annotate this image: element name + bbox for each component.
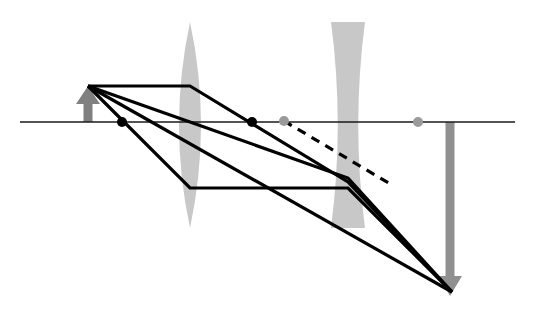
ray-diagram-canvas (0, 0, 533, 316)
object-arrow-shaft (84, 104, 93, 122)
image-arrow-shaft (446, 122, 455, 276)
focal-point-left-converging (117, 117, 127, 127)
focal-point-right-converging (247, 117, 257, 127)
optics-ray-diagram (0, 0, 533, 316)
focal-point-left-diverging (279, 116, 289, 126)
focal-point-right-diverging (413, 117, 423, 127)
